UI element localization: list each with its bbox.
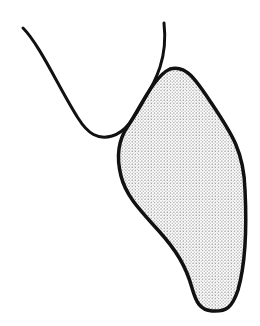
stippled-blob-shape [118,68,246,311]
diagram-canvas [0,0,260,326]
